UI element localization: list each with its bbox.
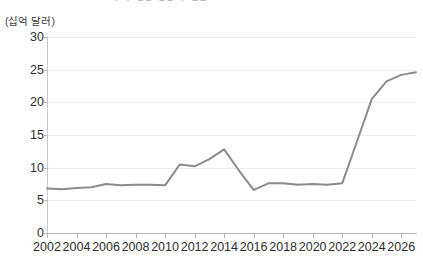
y-axis-tick-label: 30: [30, 30, 44, 44]
x-axis-tick-mark: [136, 233, 137, 238]
x-axis-tick-label: 2022: [328, 240, 356, 254]
x-axis-tick-mark: [254, 233, 255, 238]
y-axis-tick-mark: [43, 37, 48, 38]
x-axis-tick-mark: [195, 233, 196, 238]
y-axis-tick-mark: [43, 168, 48, 169]
y-axis-tick-mark: [43, 200, 48, 201]
y-axis-tick-label: 15: [30, 128, 44, 142]
x-axis-tick-label: 2008: [122, 240, 150, 254]
x-axis-tick-mark: [283, 233, 284, 238]
chart-container: · · –– –– · –– (십억 달러) 051015202530 2002…: [0, 0, 423, 259]
gridline: [47, 37, 416, 38]
gridline: [47, 135, 416, 136]
cut-off-header-text: · · –– –– · ––: [0, 0, 423, 7]
y-axis-tick-mark: [43, 70, 48, 71]
y-axis-tick-label: 20: [30, 95, 44, 109]
y-axis-tick-mark: [43, 102, 48, 103]
x-axis-tick-label: 2016: [240, 240, 268, 254]
gridline: [47, 168, 416, 169]
gridline: [47, 102, 416, 103]
x-axis-tick-label: 2026: [387, 240, 415, 254]
x-axis-tick-mark: [224, 233, 225, 238]
x-axis-tick-label: 2014: [210, 240, 238, 254]
x-axis-tick-label: 2020: [299, 240, 327, 254]
x-axis-tick-mark: [165, 233, 166, 238]
y-axis-tick-mark: [43, 135, 48, 136]
x-axis-tick-mark: [106, 233, 107, 238]
x-axis-line: [47, 233, 417, 234]
x-axis-tick-mark: [47, 233, 48, 238]
plot-area: [47, 37, 416, 233]
x-axis-tick-label: 2006: [92, 240, 120, 254]
x-axis-tick-label: 2002: [33, 240, 61, 254]
x-axis-tick-mark: [342, 233, 343, 238]
gridline: [47, 200, 416, 201]
x-axis-tick-label: 2004: [63, 240, 91, 254]
x-axis-tick-mark: [372, 233, 373, 238]
y-axis-tick-label: 25: [30, 63, 44, 77]
x-axis-tick-mark: [313, 233, 314, 238]
x-axis-tick-label: 2024: [358, 240, 386, 254]
axis-unit-label: (십억 달러): [5, 13, 55, 28]
x-axis-tick-label: 2018: [269, 240, 297, 254]
x-axis-tick-mark: [77, 233, 78, 238]
x-axis-tick-label: 2010: [151, 240, 179, 254]
y-axis-tick-label: 10: [30, 161, 44, 175]
x-axis-tick-mark: [401, 233, 402, 238]
gridline: [47, 70, 416, 71]
x-axis-tick-label: 2012: [181, 240, 209, 254]
